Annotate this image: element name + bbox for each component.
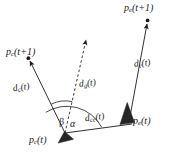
agent-c-triangle-marker — [58, 132, 73, 144]
label-vector-dg: dg(t) — [79, 78, 97, 90]
label-pc-now: pc(t) — [29, 135, 46, 146]
diagram-canvas: pc(t+1) pe(t+1) pc(t) pe(t) dc(t) de(t) … — [0, 0, 173, 153]
diagram-vector-graphics — [0, 0, 173, 153]
endpoint-dot-pe-next — [146, 19, 150, 23]
label-pc-next: pc(t+1) — [6, 47, 35, 58]
vector-de-line — [129, 24, 147, 122]
label-pe-next: pe(t+1) — [124, 3, 153, 14]
label-angle-alpha: α — [70, 119, 75, 129]
label-pe-now: pe(t) — [133, 116, 150, 127]
label-vector-de: de(t) — [134, 58, 152, 70]
angle-arc-beta — [51, 101, 72, 104]
